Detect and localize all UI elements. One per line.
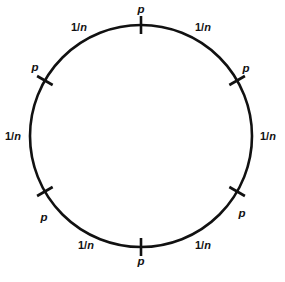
point-label-p-bottom: p — [137, 256, 144, 268]
arc-label-top-left: 1/n — [71, 22, 87, 33]
arc-label-denominator: n — [204, 21, 211, 33]
circle-outline — [30, 25, 252, 247]
arc-label-left: 1/n — [5, 131, 21, 142]
arc-label-bottom-right: 1/n — [195, 240, 211, 251]
arc-label-right: 1/n — [260, 131, 276, 142]
arc-label-denominator: n — [269, 130, 276, 142]
arc-label-top-right: 1/n — [195, 22, 211, 33]
arc-label-denominator: n — [87, 239, 94, 251]
diagram-canvas — [0, 0, 285, 282]
arc-label-denominator: n — [204, 239, 211, 251]
point-label-p-upper-left: p — [31, 62, 38, 74]
circle-diagram: p p p p p p 1/n 1/n 1/n 1/n 1/n 1/n — [0, 0, 285, 282]
tick-mark-bottom — [229, 187, 245, 196]
point-label-p-lower-right: p — [238, 208, 245, 220]
tick-mark-upper-left — [37, 187, 53, 196]
arc-label-bottom-left: 1/n — [78, 240, 94, 251]
point-label-p-lower-left: p — [40, 212, 47, 224]
tick-mark-upper-right — [37, 76, 53, 85]
point-label-p-top: p — [137, 4, 144, 16]
arc-label-denominator: n — [14, 130, 21, 142]
arc-label-denominator: n — [80, 21, 87, 33]
tick-mark-lower-right — [229, 76, 245, 85]
point-label-p-upper-right: p — [242, 63, 249, 75]
